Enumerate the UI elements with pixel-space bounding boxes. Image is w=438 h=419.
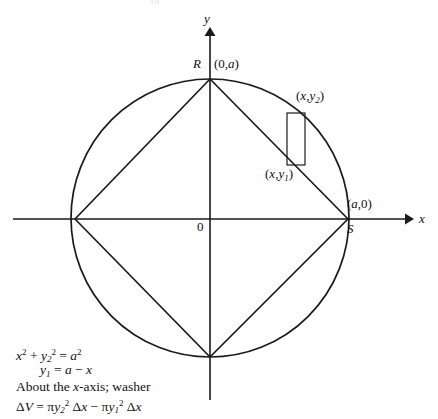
point-0-a-variable: a: [228, 56, 235, 71]
washer-rectangle-element: [287, 113, 305, 165]
vertex-label-r: R: [193, 57, 201, 70]
segment-bottom-to-left: [75, 219, 210, 357]
origin-label: 0: [197, 220, 204, 233]
segment-S-to-bottom: [210, 219, 348, 357]
inscribed-square: [75, 79, 348, 357]
vertex-label-s: S: [347, 222, 354, 235]
formula-circle-equation: x2 + y22 = a2: [16, 344, 151, 361]
about-text-suffix: -axis; washer: [79, 379, 151, 394]
formula-delta-volume: ΔV = πy22 Δx − πy12 Δx: [16, 395, 151, 412]
about-text-prefix: About the: [16, 379, 73, 394]
y-axis-arrowhead: [205, 27, 216, 36]
point-x-y1-subscript: 1: [284, 173, 289, 183]
washer-method-figure: 10 y x 0 R (0,a) S (a,0) (x,y2) (x,y1): [0, 0, 438, 419]
formula-block: x2 + y22 = a2 y1 = a − x About the x-axi…: [16, 344, 151, 412]
formula-line-equation: y1 = a − x: [16, 361, 151, 378]
point-a-0-variable: a: [351, 196, 358, 211]
x-axis-arrowhead: [405, 214, 414, 225]
x-axis-label: x: [419, 212, 425, 225]
point-label-a-0: (a,0): [347, 197, 372, 210]
formula-about-axis-note: About the x-axis; washer: [16, 378, 151, 395]
point-x-y2-subscript: 2: [315, 95, 320, 105]
y-axis-label: y: [204, 12, 210, 25]
point-label-x-y1: (x,y1): [265, 167, 293, 183]
point-label-x-y2: (x,y2): [296, 89, 324, 105]
point-label-0-a: (0,a): [214, 57, 239, 70]
segment-R-to-S: [210, 79, 348, 219]
segment-left-to-R: [75, 79, 210, 219]
